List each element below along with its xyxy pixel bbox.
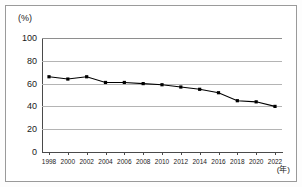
data-point-marker [198,88,201,91]
y-axis-unit-label: (%) [18,13,32,23]
data-point-marker [142,82,145,85]
data-point-marker [104,81,107,84]
x-axis-tick-label: 2002 [79,158,93,165]
x-axis-tick-mark [162,152,163,155]
x-axis-tick-mark [256,152,257,155]
data-point-marker [217,91,220,94]
y-axis-tick-label: 80 [5,57,37,66]
data-point-marker [160,83,163,86]
data-series-plot [42,38,282,152]
x-axis-tick-label: 2000 [61,158,75,165]
x-axis-tick-label: 2016 [211,158,225,165]
x-axis-tick-label: 2012 [174,158,188,165]
x-axis-tick-label: 2008 [136,158,150,165]
data-point-marker [255,100,258,103]
x-axis-tick-mark [219,152,220,155]
y-axis-tick-label: 40 [5,102,37,111]
data-point-marker [273,105,276,108]
data-point-marker [66,77,69,80]
x-axis-tick-label: 2006 [117,158,131,165]
x-axis-tick-label: 2014 [192,158,206,165]
x-axis-tick-mark [237,152,238,155]
y-axis-tick-label: 100 [5,34,37,43]
x-axis-tick-label: 1998 [42,158,56,165]
series-line [49,77,275,107]
x-axis-tick-mark [106,152,107,155]
series-markers [47,75,276,108]
x-axis-tick-mark [87,152,88,155]
x-axis-unit-label: (年) [277,163,290,174]
x-axis-tick-label: 2004 [98,158,112,165]
x-axis-tick-mark [181,152,182,155]
data-point-marker [85,75,88,78]
data-point-marker [123,81,126,84]
x-axis-tick-label: 2018 [230,158,244,165]
x-axis-tick-label: 2020 [249,158,263,165]
data-point-marker [47,75,50,78]
chart-figure: (%) 020406080100 19982000200220042006200… [0,0,302,187]
x-axis-tick-mark [68,152,69,155]
y-axis-tick-label: 20 [5,125,37,134]
x-axis-tick-label: 2010 [155,158,169,165]
x-axis-tick-mark [124,152,125,155]
x-axis-tick-mark [143,152,144,155]
y-axis-tick-label: 60 [5,80,37,89]
y-axis-tick-label: 0 [5,148,37,157]
data-point-marker [179,85,182,88]
x-axis-tick-mark [200,152,201,155]
data-point-marker [236,99,239,102]
x-axis-tick-mark [275,152,276,155]
x-axis-tick-mark [49,152,50,155]
